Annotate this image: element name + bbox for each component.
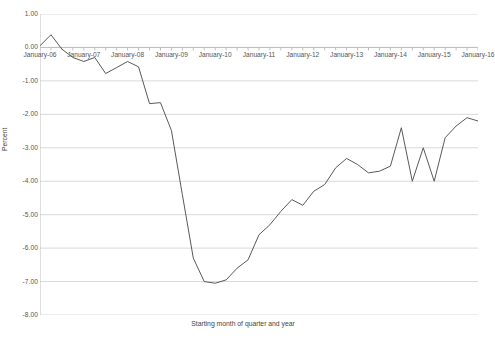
x-tick-label: January-12 xyxy=(286,51,319,58)
x-tick-label: January-11 xyxy=(243,51,276,58)
x-tick-label: January-08 xyxy=(111,51,144,58)
x-tick-label: January-09 xyxy=(155,51,188,58)
x-axis-title: Starting month of quarter and year xyxy=(0,320,486,327)
x-tick-label: January-10 xyxy=(199,51,232,58)
x-tick-label: January-15 xyxy=(418,51,451,58)
x-tick-label: January-14 xyxy=(374,51,407,58)
x-tick-label: January-13 xyxy=(330,51,363,58)
x-tick-label: January-16 xyxy=(462,51,495,58)
x-tick-label: January-06 xyxy=(24,51,57,58)
x-tick-label: January-07 xyxy=(67,51,100,58)
